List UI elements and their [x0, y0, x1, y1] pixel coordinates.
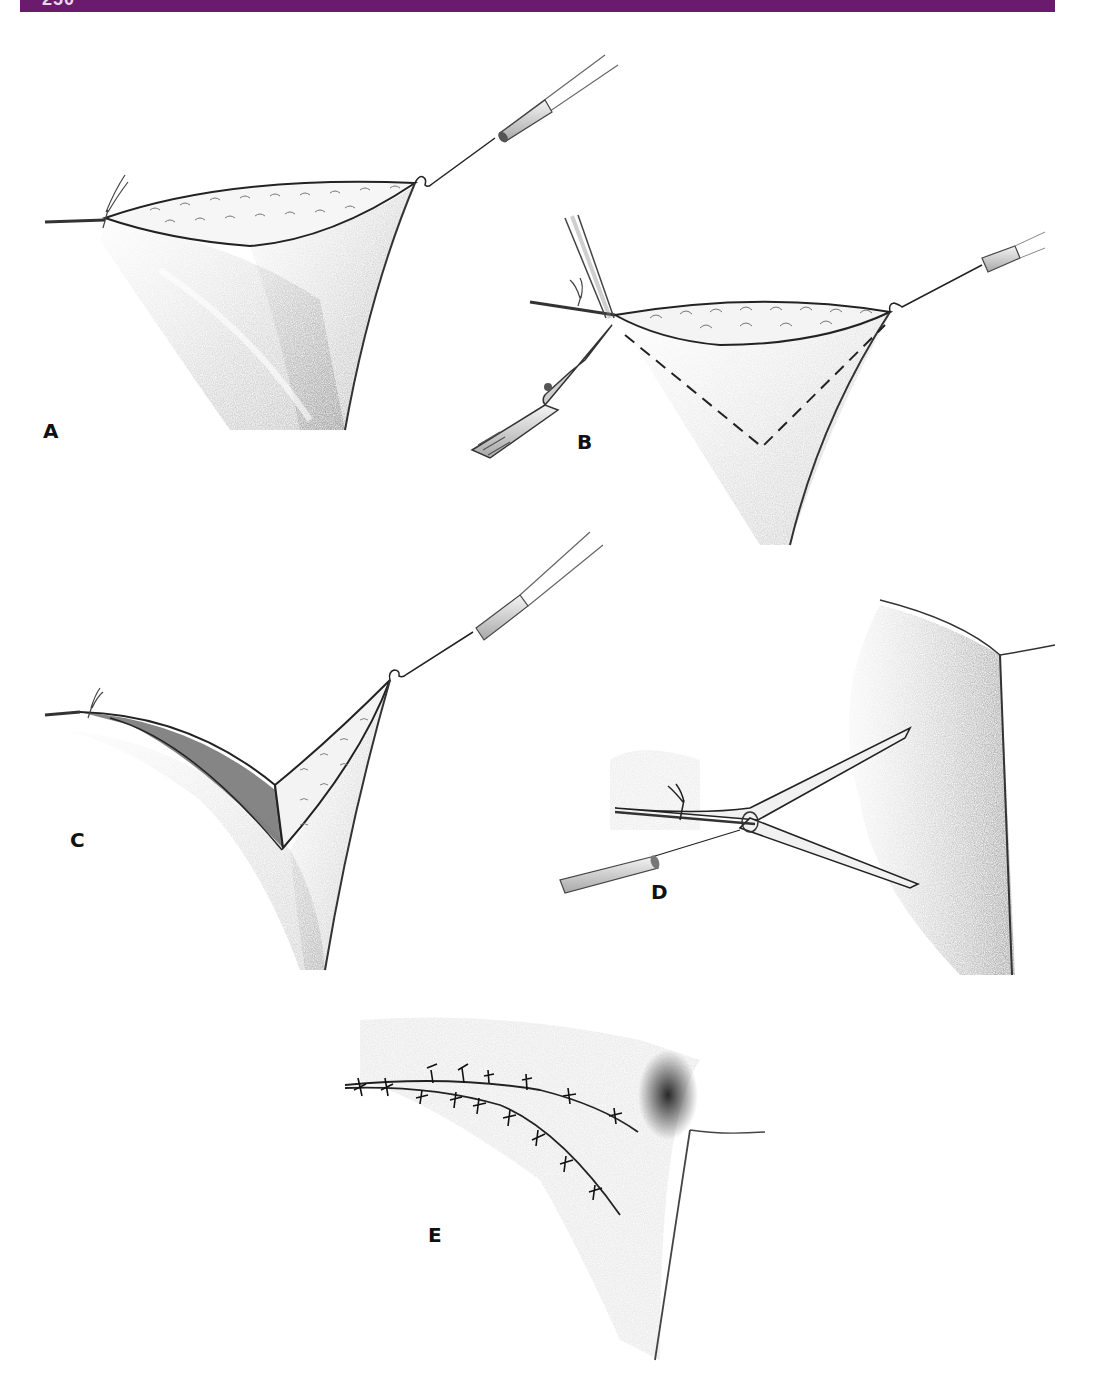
panel-b: [472, 215, 1045, 545]
panel-e: [345, 1018, 765, 1361]
panel-c: [45, 532, 603, 970]
panel-label-d: D: [651, 882, 668, 902]
panel-label-e: E: [428, 1225, 442, 1245]
panel-a: [45, 55, 618, 430]
panel-d: [560, 600, 1055, 975]
panel-label-c: C: [70, 830, 85, 850]
panel-label-a: A: [43, 421, 58, 441]
surgical-figure: [0, 0, 1100, 1395]
panel-label-b: B: [577, 432, 592, 452]
